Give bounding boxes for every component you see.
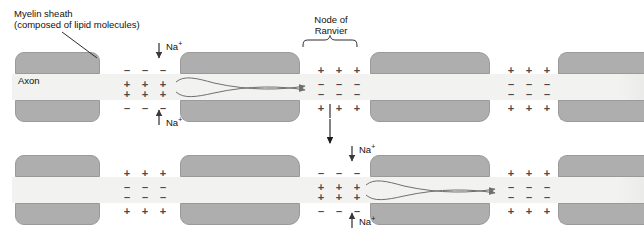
sodium-symbol: Na	[359, 144, 371, 155]
sodium-symbol: Na	[359, 216, 371, 227]
diagram-canvas: – – – + + + + + + – – – +	[0, 0, 644, 228]
myelin-sheath-label-line2: (composed of lipid molecules)	[14, 19, 140, 31]
sodium-label-bottom-efflux: Na+	[359, 213, 375, 228]
myelin-leader-line	[62, 32, 97, 58]
sodium-charge: +	[178, 116, 182, 123]
node-of-ranvier-label-line2: Ranvier	[305, 25, 357, 37]
sodium-charge: +	[371, 143, 375, 150]
node-of-ranvier-brace	[303, 36, 357, 48]
sodium-label-bottom-influx: Na+	[359, 141, 375, 156]
sodium-charge: +	[371, 215, 375, 222]
sodium-label-top-influx: Na+	[166, 38, 182, 53]
axon-label: Axon	[18, 75, 40, 87]
sodium-label-top-efflux: Na+	[166, 114, 182, 129]
sodium-charge: +	[178, 40, 182, 47]
node-of-ranvier-label-line1: Node of	[305, 14, 357, 26]
myelin-sheath-label-line1: Myelin sheath	[14, 8, 73, 20]
sodium-symbol: Na	[166, 41, 178, 52]
sodium-symbol: Na	[166, 117, 178, 128]
